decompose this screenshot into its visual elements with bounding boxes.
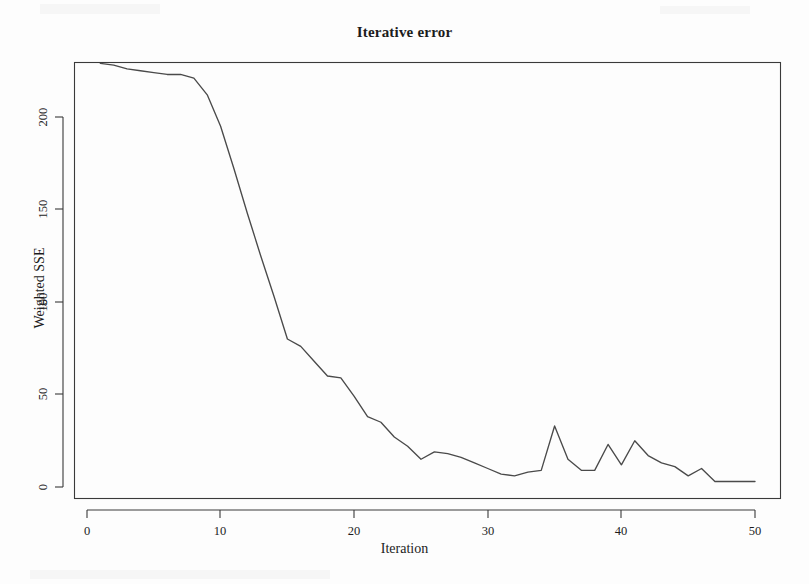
- x-tick-label-30: 30: [482, 524, 495, 538]
- x-tick-label-50: 50: [749, 524, 762, 538]
- chart-plot-area: 0 10 20 30 40 50 0 50 100 150 200: [0, 0, 809, 584]
- y-tick-label-100: 100: [36, 293, 50, 312]
- x-axis-label: Iteration: [0, 541, 809, 557]
- x-tick-label-0: 0: [84, 524, 90, 538]
- plot-frame: [75, 63, 781, 499]
- x-axis-ticks: [87, 510, 755, 518]
- x-tick-label-10: 10: [214, 524, 227, 538]
- figure-canvas: Iterative error Weighted SSE 0 10 20 30 …: [0, 0, 809, 584]
- y-tick-label-150: 150: [36, 200, 50, 219]
- x-tick-label-40: 40: [615, 524, 628, 538]
- x-tick-label-20: 20: [348, 524, 361, 538]
- y-tick-label-200: 200: [36, 108, 50, 127]
- y-tick-label-0: 0: [36, 484, 50, 490]
- data-series-weighted-sse: [100, 63, 755, 481]
- y-tick-label-50: 50: [36, 388, 50, 401]
- y-axis-ticks: [55, 117, 63, 487]
